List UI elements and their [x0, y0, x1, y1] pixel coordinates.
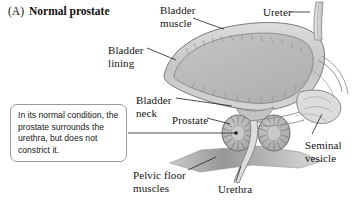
leader-bladder-lining — [147, 48, 176, 60]
label-seminal-vesicle: Seminal vesicle — [305, 139, 342, 164]
figure-normal-prostate: (A)Normal prostate In its normal conditi… — [0, 0, 354, 207]
panel-title: (A)Normal prostate — [8, 5, 110, 17]
label-bladder-muscle: Bladder muscle — [160, 4, 196, 29]
label-bladder-neck: Bladder neck — [136, 94, 172, 119]
ureter-shape — [314, 2, 323, 40]
leader-prostate-dot — [234, 131, 238, 135]
callout-box: In its normal condition, the prostate su… — [10, 104, 127, 162]
label-ureter: Ureter — [263, 6, 292, 19]
label-prostate: Prostate — [172, 114, 208, 127]
leader-bladder-muscle — [193, 18, 224, 29]
panel-title-text: Normal prostate — [24, 5, 110, 17]
label-pelvic-floor-muscles: Pelvic floor muscles — [133, 169, 186, 194]
label-urethra: Urethra — [218, 183, 252, 196]
label-bladder-lining: Bladder lining — [108, 44, 144, 69]
panel-tag: (A) — [8, 5, 24, 17]
